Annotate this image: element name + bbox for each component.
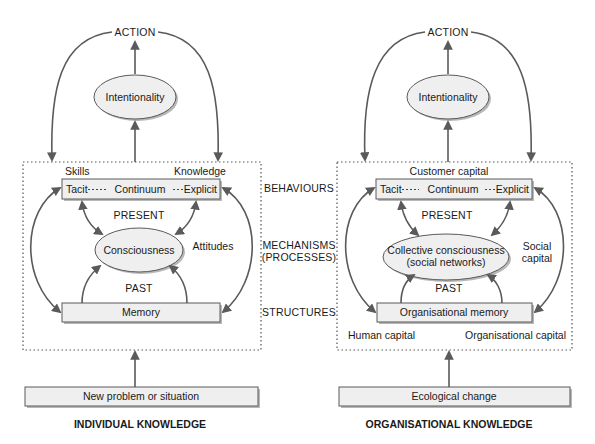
org-present-left-arrow	[401, 202, 418, 235]
org-customer-capital-label: Customer capital	[410, 165, 489, 177]
mechanisms-label: MECHANISMS	[262, 239, 335, 251]
org-consciousness-label-line2: (social networks)	[407, 256, 486, 268]
org-past-right-arrow	[488, 275, 502, 303]
structures-label: STRUCTURES	[262, 306, 336, 318]
individual-present-label: PRESENT	[114, 209, 165, 221]
individual-memory-label: Memory	[122, 306, 161, 318]
individual-past-left-arrow	[82, 266, 100, 303]
knowledge-diagram: ACTION Intentionality Skills Knowledge T…	[0, 0, 595, 444]
org-present-label: PRESENT	[422, 209, 473, 221]
individual-present-right-arrow	[176, 202, 196, 234]
individual-left-loop-arrow	[31, 188, 60, 312]
individual-attitudes-label: Attitudes	[193, 240, 234, 252]
processes-label: (PROCESSES)	[262, 251, 337, 263]
individual-action-label: ACTION	[115, 26, 156, 38]
org-intentionality-label: Intentionality	[419, 91, 479, 103]
org-past-left-arrow	[401, 275, 414, 303]
individual-past-label: PAST	[125, 282, 153, 294]
level-labels: BEHAVIOURS MECHANISMS (PROCESSES) STRUCT…	[262, 182, 337, 318]
org-memory-label: Organisational memory	[400, 306, 509, 318]
organisational-knowledge-title: ORGANISATIONAL KNOWLEDGE	[365, 418, 532, 430]
individual-past-right-arrow	[170, 266, 187, 303]
org-explicit-label: Explicit	[496, 183, 529, 195]
individual-knowledge-title: INDIVIDUAL KNOWLEDGE	[74, 418, 206, 430]
individual-skills-label: Skills	[65, 165, 90, 177]
org-social-capital-label-line1: Social	[523, 240, 552, 252]
individual-consciousness-label: Consciousness	[103, 244, 174, 256]
behaviours-label: BEHAVIOURS	[264, 182, 334, 194]
individual-knowledge-label: Knowledge	[174, 165, 226, 177]
individual-input-label: New problem or situation	[83, 390, 199, 402]
individual-tacit-label: Tacit	[66, 183, 88, 195]
individual-explicit-label: Explicit	[184, 183, 217, 195]
org-tacit-label: Tacit	[380, 183, 402, 195]
org-action-label: ACTION	[428, 26, 469, 38]
organisational-knowledge-panel: ACTION Intentionality Customer capital T…	[337, 26, 572, 430]
org-organisational-capital-label: Organisational capital	[465, 329, 566, 341]
individual-present-left-arrow	[82, 202, 102, 234]
org-present-right-arrow	[492, 202, 510, 235]
org-continuum-label: Continuum	[428, 183, 479, 195]
org-past-label: PAST	[435, 282, 463, 294]
org-left-loop-arrow	[346, 188, 375, 312]
individual-continuum-label: Continuum	[115, 183, 166, 195]
org-consciousness-label-line1: Collective consciousness	[387, 244, 504, 256]
individual-intentionality-label: Intentionality	[106, 91, 166, 103]
individual-knowledge-panel: ACTION Intentionality Skills Knowledge T…	[23, 26, 261, 430]
org-input-label: Ecological change	[411, 390, 496, 402]
org-human-capital-label: Human capital	[348, 329, 415, 341]
org-social-capital-label-line2: capital	[522, 252, 552, 264]
